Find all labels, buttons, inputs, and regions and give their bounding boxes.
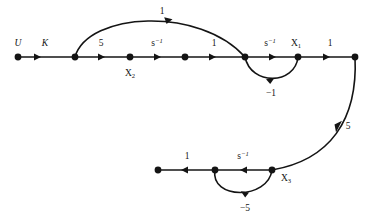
edge-x2-to-mid-arrowhead [154, 53, 161, 60]
edge-label-gain-k: K [41, 38, 49, 48]
node-summing-2 [242, 54, 249, 61]
edge-sum1-to-x2-arrowhead [98, 53, 105, 60]
edge-label-gain-1-bottom: 1 [185, 151, 190, 161]
edge-top-arc-arrowhead [164, 17, 172, 24]
node-label-x2-subscript: 2 [132, 72, 135, 79]
edge-u-to-sum1-arrowhead [34, 53, 41, 60]
node-output [352, 54, 359, 61]
edge-label-gain-1-out: 1 [328, 38, 333, 48]
node-x3 [269, 167, 276, 174]
edge-label-gain-s-inv-3: s−1 [237, 150, 248, 161]
edge-mid-to-sum2-arrowhead [209, 53, 216, 60]
node-mid [182, 54, 189, 61]
edge-label-gain-s-inv-1-exponent: −1 [155, 37, 163, 44]
signal-flow-graph-diagram: U X2 X1 X3 K 5 s−1 1 s−1 1 1 −1 5 s−1 1 … [0, 0, 368, 219]
node-bottom-mid [212, 167, 219, 174]
edge-label-gain-5-down: 5 [346, 121, 351, 131]
node-u [15, 54, 22, 61]
edge-label-gain-neg1-loop: −1 [266, 88, 276, 98]
edge-feedback-neg1-path [245, 57, 298, 78]
node-label-x2: X2 [125, 68, 135, 79]
edge-x1-to-output-arrowhead [323, 53, 330, 60]
edge-sum2-to-x1-arrowhead [269, 53, 276, 60]
signal-flow-graph-canvas: U X2 X1 X3 K 5 s−1 1 s−1 1 1 −1 5 s−1 1 … [0, 0, 368, 219]
edge-label-gain-neg5-loop: −5 [240, 203, 250, 213]
node-label-x3: X3 [281, 173, 292, 184]
node-label-u: U [15, 38, 23, 48]
edge-label-gain-s-inv-3-exponent: −1 [241, 150, 249, 157]
edge-x3-to-bottom-mid-arrowhead [240, 166, 247, 173]
edge-feedback-neg1-arrowhead [266, 78, 274, 84]
node-summing-1 [72, 54, 79, 61]
node-label-x3-subscript: 3 [288, 177, 292, 184]
node-x1 [295, 54, 302, 61]
edge-label-gain-1-top-arc: 1 [160, 6, 165, 16]
edge-label-gain-5-forward: 5 [99, 38, 104, 48]
edge-label-gain-s-inv-2: s−1 [264, 37, 275, 48]
edge-label-gain-s-inv-2-exponent: −1 [268, 37, 276, 44]
node-x2 [127, 54, 134, 61]
edge-label-gain-s-inv-1: s−1 [151, 37, 162, 48]
edge-output-to-x3-path [272, 57, 355, 170]
node-bottom-left [155, 167, 162, 174]
node-label-x1-subscript: 1 [298, 42, 301, 49]
edge-feedback-neg5-path [215, 170, 272, 193]
edge-bottom-mid-left-arrowhead [181, 166, 188, 173]
edge-label-gain-1-mid: 1 [212, 38, 217, 48]
node-label-x1: X1 [291, 38, 301, 49]
